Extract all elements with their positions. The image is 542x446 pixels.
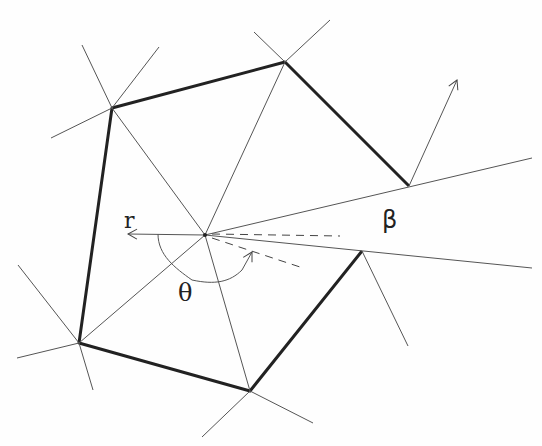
r-arrow [128, 234, 205, 235]
spokes [79, 62, 532, 391]
diagram-canvas: r β θ [0, 0, 542, 446]
theta-arc [158, 234, 252, 282]
label-theta: θ [178, 279, 192, 307]
dashed-line-angled [212, 238, 300, 267]
dashed-line-horizontal [212, 234, 340, 236]
label-r: r [124, 208, 135, 233]
center-point [203, 233, 207, 237]
normal-arrow [409, 80, 457, 186]
diagram-svg [0, 0, 542, 446]
label-beta: β [382, 206, 397, 234]
